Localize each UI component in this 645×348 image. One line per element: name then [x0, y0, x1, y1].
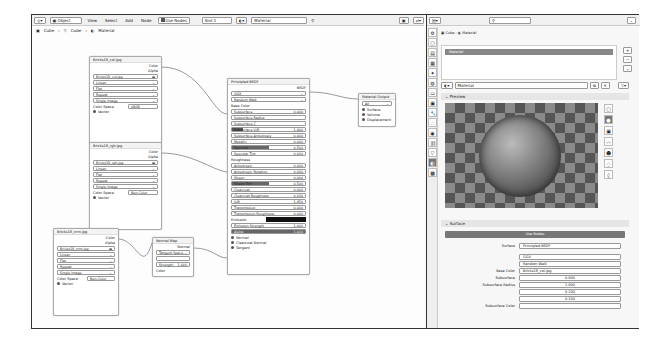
socket-icon[interactable] — [57, 282, 60, 285]
surface-shader-field[interactable]: Principled BSDF — [519, 243, 621, 249]
data-tab-icon[interactable]: ▽ — [428, 148, 437, 157]
scene-tab-icon[interactable]: ✦ — [428, 68, 437, 77]
shader-node-editor[interactable]: ◎▾ ▣ Object View Select Add Node Use Nod… — [32, 15, 424, 328]
distribution-dropdown[interactable]: GGX — [519, 254, 621, 260]
particles-tab-icon[interactable]: ∴ — [428, 118, 437, 127]
physics-tab-icon[interactable]: ◉ — [428, 128, 437, 137]
preview-hair-icon[interactable]: 〰 — [604, 137, 613, 146]
add-slot-button[interactable]: + — [623, 47, 632, 54]
extension-dropdown[interactable]: Repeat⌄ — [93, 178, 158, 183]
duplicate-icon[interactable]: ⧉ — [590, 82, 599, 89]
material-slots-list[interactable]: Material — [441, 45, 617, 80]
subsurface-method-dropdown[interactable]: Random Walk — [519, 261, 621, 267]
browse-material-button[interactable]: ◐▾ — [441, 82, 453, 89]
subsurface-field[interactable]: 0.000 — [519, 275, 621, 281]
preview-cloth-icon[interactable]: ◊ — [604, 170, 613, 179]
emission-color-swatch[interactable] — [266, 217, 306, 222]
render-tab-icon[interactable]: ▢ — [428, 38, 437, 47]
material-output-node[interactable]: Material Output All⌄ Surface Volume Disp… — [358, 93, 396, 127]
socket-icon[interactable] — [362, 108, 365, 111]
target-dropdown[interactable]: All⌄ — [362, 101, 392, 106]
input-anisotropic[interactable]: Anisotropic0.000 — [231, 163, 306, 168]
extension-dropdown[interactable]: Repeat⌄ — [93, 92, 158, 97]
subsurface-radius-z[interactable]: 0.100 — [519, 296, 621, 302]
output-tab-icon[interactable]: ▤ — [428, 48, 437, 57]
tool-tab-icon[interactable]: ⚙ — [428, 28, 437, 37]
projection-dropdown[interactable]: Flat⌄ — [93, 172, 158, 177]
preview-flat-icon[interactable]: ▢ — [604, 104, 613, 113]
socket-icon[interactable] — [362, 113, 365, 116]
source-dropdown[interactable]: Single Image⌄ — [93, 184, 158, 189]
socket-icon[interactable] — [231, 241, 234, 244]
material-name-field[interactable]: Material — [455, 82, 588, 89]
material-slot-item[interactable]: Material — [445, 49, 613, 55]
search-input[interactable]: ⚲ — [489, 17, 531, 24]
extension-dropdown[interactable]: Repeat⌄ — [57, 264, 115, 269]
subsurface-color-field[interactable] — [519, 303, 621, 309]
interpolation-dropdown[interactable]: Linear⌄ — [57, 252, 115, 257]
space-dropdown[interactable]: Tangent Space⌄ — [156, 250, 190, 255]
socket-icon[interactable] — [231, 246, 234, 249]
collection-tab-icon[interactable]: ▭ — [428, 88, 437, 97]
world-tab-icon[interactable]: ◍ — [428, 78, 437, 87]
input-subsurface-ior[interactable]: Subsurface IOR1.400 — [231, 127, 306, 132]
source-dropdown[interactable]: Single Image⌄ — [93, 98, 158, 103]
subsurface-method-dropdown[interactable]: Random Walk⌄ — [231, 97, 306, 102]
surface-header[interactable]: ⌄ Surface — [441, 220, 629, 227]
image-texture-node-nrm[interactable]: Bricks18_nrm.jpg Color Alpha Bricks18_nr… — [53, 228, 119, 316]
image-texture-node-col[interactable]: Bricks18_col.jpg Color Alpha Bricks18_co… — [89, 56, 162, 144]
editor-type-button[interactable]: ▤▾ — [429, 17, 441, 24]
object-tab-icon[interactable]: ▣ — [428, 98, 437, 107]
projection-dropdown[interactable]: Flat⌄ — [57, 258, 115, 263]
unlink-icon[interactable]: ✕ — [601, 82, 610, 89]
socket-icon[interactable] — [231, 236, 234, 239]
input-clearcoat[interactable]: Clearcoat0.000 — [231, 187, 306, 192]
input-sheen-tint[interactable]: Sheen Tint0.500 — [231, 181, 306, 186]
input-metallic[interactable]: Metallic0.000 — [231, 139, 306, 144]
preview-monkey-icon[interactable]: ☻ — [604, 148, 613, 157]
view-layer-tab-icon[interactable]: ▦ — [428, 58, 437, 67]
subsurface-radius-x[interactable]: 1.000 — [519, 282, 621, 288]
input-transmission[interactable]: Transmission0.000 — [231, 205, 306, 210]
material-tab-icon[interactable]: ◐ — [428, 158, 437, 167]
color-space-dropdown[interactable]: sRGB — [128, 104, 158, 109]
projection-dropdown[interactable]: Flat⌄ — [93, 86, 158, 91]
preview-world-icon[interactable]: ◌ — [604, 159, 613, 168]
strength-field[interactable]: Strength1.000 — [156, 262, 190, 267]
image-selector[interactable]: Bricks18_col.jpg▬ — [93, 74, 158, 79]
image-selector[interactable]: Bricks18_rgh.jpg▬ — [93, 160, 158, 165]
preview-cube-icon[interactable]: ▣ — [604, 126, 613, 135]
color-space-dropdown[interactable]: Non-Color — [128, 190, 158, 195]
input-subsurface-anisotropy[interactable]: Subsurface Anisotropy0.000 — [231, 133, 306, 138]
input-transmission-roughness[interactable]: Transmission Roughness0.000 — [231, 211, 306, 216]
subsurface-radius-y[interactable]: 0.200 — [519, 289, 621, 295]
slot-specials-button[interactable]: ⌄ — [623, 65, 632, 72]
socket-icon[interactable] — [362, 118, 365, 121]
interpolation-dropdown[interactable]: Linear⌄ — [93, 80, 158, 85]
options-dropdown[interactable]: ⌄ — [627, 17, 636, 24]
link-dropdown[interactable]: ▽▾ — [618, 82, 629, 89]
input-emission-strength[interactable]: Emission Strength1.000 — [231, 223, 306, 228]
preview-header[interactable]: ⌄ Preview — [441, 93, 629, 100]
socket-icon[interactable] — [93, 196, 96, 199]
normal-map-node[interactable]: Normal Map Normal Tangent Space⌄ Strengt… — [152, 237, 194, 277]
image-texture-node-rgh[interactable]: Bricks18_rgh.jpg Color Alpha Bricks18_rg… — [89, 142, 162, 230]
input-specular-tint[interactable]: Specular Tint0.000 — [231, 151, 306, 156]
input-ior[interactable]: IOR1.450 — [231, 199, 306, 204]
principled-bsdf-node[interactable]: Principled BSDF BSDF GGX⌄ Random Walk⌄ B… — [227, 78, 310, 275]
preview-sphere-icon[interactable]: ● — [604, 115, 613, 124]
uv-map-field[interactable] — [156, 256, 190, 261]
input-subsurface-color[interactable]: Subsurface C — [231, 121, 306, 126]
color-space-dropdown[interactable]: Non-Color — [87, 276, 115, 281]
input-clearcoat-roughness[interactable]: Clearcoat Roughness0.030 — [231, 193, 306, 198]
texture-tab-icon[interactable]: ▩ — [428, 168, 437, 177]
input-sheen[interactable]: Sheen0.000 — [231, 175, 306, 180]
base-color-field[interactable]: Bricks18_col.jpg — [519, 268, 621, 274]
constraints-tab-icon[interactable]: ⛓ — [428, 138, 437, 147]
use-nodes-button[interactable]: Use Nodes — [445, 231, 625, 238]
distribution-dropdown[interactable]: GGX⌄ — [231, 91, 306, 96]
modifier-tab-icon[interactable]: 🔧 — [428, 108, 437, 117]
input-alpha[interactable]: Alpha1.000 — [231, 229, 306, 234]
input-anisotropic-rotation[interactable]: Anisotropic Rotation0.000 — [231, 169, 306, 174]
input-subsurface[interactable]: Subsurface0.000 — [231, 109, 306, 114]
